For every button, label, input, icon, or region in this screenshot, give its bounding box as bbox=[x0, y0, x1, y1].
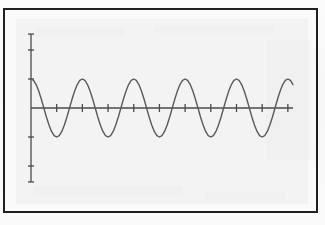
plot-area bbox=[3, 8, 318, 213]
screenshot-root bbox=[0, 0, 325, 225]
sinusoid-chart bbox=[3, 8, 318, 213]
